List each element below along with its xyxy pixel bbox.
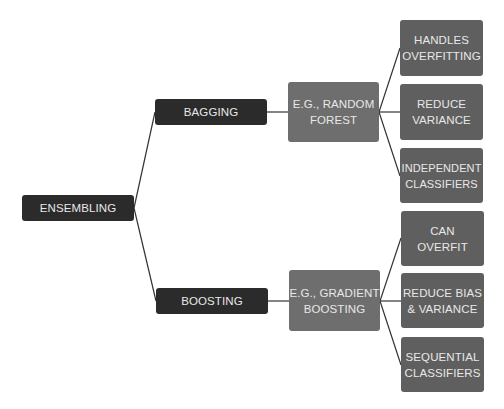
gradient-boosting-node: E.G., GRADIENT BOOSTING: [289, 270, 380, 331]
sequential-classifiers-node: SEQUENTIAL CLASSIFIERS: [401, 337, 484, 392]
reduce-variance-node: REDUCE VARIANCE: [400, 84, 483, 140]
ensembling-node: ENSEMBLING: [22, 195, 134, 221]
independent-classifiers-node: INDEPENDENT CLASSIFIERS: [400, 148, 483, 203]
boosting-node: BOOSTING: [156, 288, 268, 314]
can-overfit-node: CAN OVERFIT: [401, 211, 484, 266]
reduce-bias-variance-node: REDUCE BIAS & VARIANCE: [401, 273, 484, 328]
handles-overfitting-node: HANDLES OVERFITTING: [400, 20, 483, 76]
bagging-node: BAGGING: [155, 99, 267, 125]
random-forest-node: E.G., RANDOM FOREST: [288, 82, 379, 142]
